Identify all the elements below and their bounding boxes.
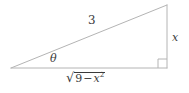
radicand-group: 9−x2: [74, 72, 105, 84]
right-triangle-figure: 3 θ x √ 9−x2: [0, 0, 189, 93]
radicand-exponent: 2: [100, 71, 104, 79]
adjacent-leg-label: √ 9−x2: [66, 71, 105, 84]
minus-sign: −: [82, 72, 93, 85]
right-angle-marker-icon: [158, 59, 167, 68]
hypotenuse-label: 3: [88, 14, 96, 26]
angle-theta-label: θ: [50, 53, 57, 64]
opposite-leg-label: x: [172, 32, 178, 43]
radical-sign-icon: √: [66, 71, 74, 84]
